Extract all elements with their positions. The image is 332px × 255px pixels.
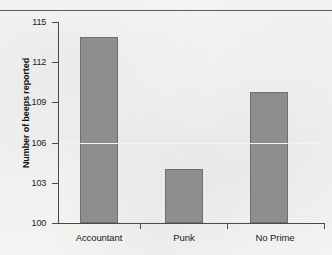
bar-no-prime[interactable] bbox=[250, 92, 288, 223]
x-axis-line bbox=[58, 223, 325, 224]
x-tick-separator-2 bbox=[227, 223, 228, 229]
x-tick-separator-1 bbox=[140, 223, 141, 229]
y-axis-line bbox=[58, 22, 59, 223]
y-tick-label-115: 115 bbox=[22, 17, 46, 27]
y-tick-label-100: 100 bbox=[22, 218, 46, 228]
bar-punk[interactable] bbox=[165, 169, 203, 223]
x-tick-label-no-prime: No Prime bbox=[229, 232, 321, 243]
y-tick-label-103: 103 bbox=[22, 178, 46, 188]
y-tick-label-109: 109 bbox=[22, 97, 46, 107]
gridline-106 bbox=[59, 143, 325, 144]
bar-chart: Number of beeps reported 115 112 109 106… bbox=[0, 0, 332, 255]
x-tick-label-accountant: Accountant bbox=[59, 232, 139, 243]
y-tick-label-112: 112 bbox=[22, 57, 46, 67]
x-tick-end bbox=[324, 223, 325, 229]
y-tick-label-106: 106 bbox=[22, 138, 46, 148]
x-tick-label-punk: Punk bbox=[144, 232, 224, 243]
bar-accountant[interactable] bbox=[80, 37, 118, 223]
